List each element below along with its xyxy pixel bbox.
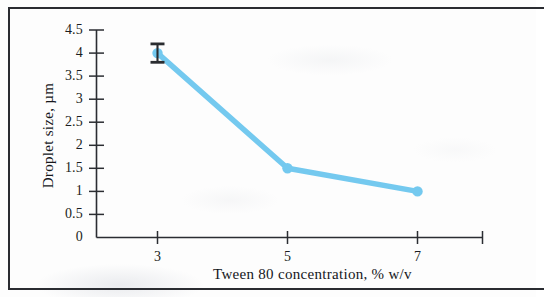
x-tick-label: 3 xyxy=(145,250,171,264)
y-tick-label: 0 xyxy=(49,230,83,244)
y-tick-label: 0.5 xyxy=(49,207,83,221)
x-tick-label: 5 xyxy=(275,250,301,264)
y-tick-label: 4.5 xyxy=(49,23,83,37)
x-tick-label: 7 xyxy=(405,250,431,264)
data-point-marker xyxy=(412,186,422,196)
x-axis-title: Tween 80 concentration, % w/v xyxy=(213,266,412,283)
data-point-marker xyxy=(282,163,292,173)
y-axis-title: Droplet size, µm xyxy=(40,66,57,206)
y-tick-label: 4 xyxy=(49,46,83,60)
